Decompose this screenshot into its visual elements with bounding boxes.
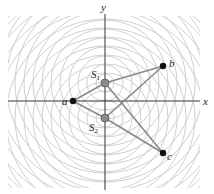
point-c bbox=[160, 150, 166, 156]
point-a bbox=[70, 98, 76, 104]
interference-diagram: x y S1 S2 a b c bbox=[0, 0, 214, 194]
y-axis-label: y bbox=[100, 1, 106, 13]
source-s2 bbox=[101, 114, 109, 122]
point-b bbox=[160, 63, 166, 69]
wavefronts bbox=[0, 0, 214, 194]
source-s1-label: S1 bbox=[91, 68, 101, 82]
point-c-label: c bbox=[167, 150, 172, 162]
source-s1 bbox=[101, 79, 109, 87]
point-a-label: a bbox=[62, 95, 68, 107]
x-axis-label: x bbox=[202, 95, 208, 107]
point-b-label: b bbox=[169, 57, 175, 69]
